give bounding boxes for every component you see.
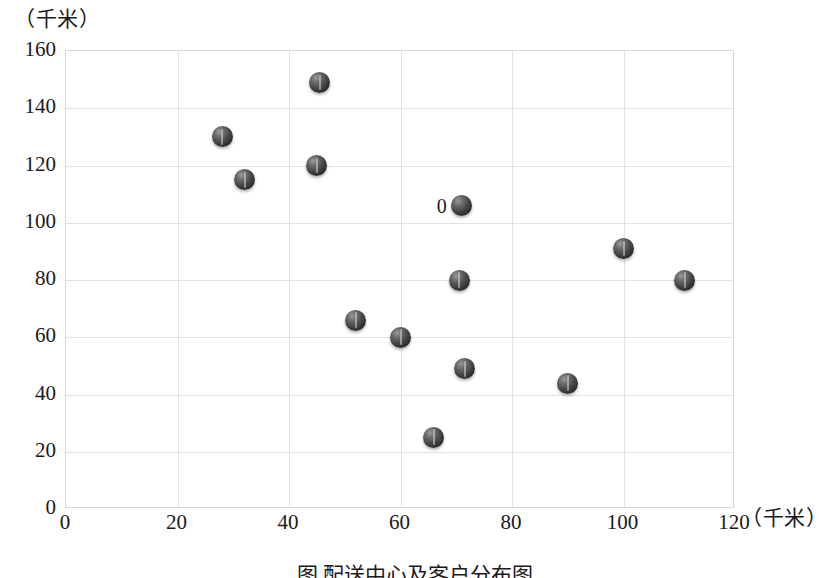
x-axis-tick-label: 0 <box>30 510 100 534</box>
x-axis-tick-label: 40 <box>253 510 323 534</box>
scatter-chart-figure: （千米） 020406080100120140160 0 02040608010… <box>0 0 830 578</box>
x-axis-tick-label: 60 <box>365 510 435 534</box>
data-point[interactable] <box>451 195 472 216</box>
y-axis-tick-label: 20 <box>0 440 56 461</box>
data-point[interactable] <box>557 373 578 394</box>
data-point[interactable] <box>423 427 444 448</box>
y-axis-tick-label: 140 <box>0 96 56 117</box>
x-axis-unit-label: （千米） <box>741 505 827 531</box>
data-point[interactable] <box>309 72 330 93</box>
data-point[interactable] <box>306 155 327 176</box>
data-point[interactable] <box>449 270 470 291</box>
x-axis-tick-label: 20 <box>142 510 212 534</box>
data-point[interactable] <box>345 310 366 331</box>
point-annotation: 0 <box>437 196 451 216</box>
data-point[interactable] <box>234 169 255 190</box>
y-axis-tick-label: 40 <box>0 383 56 404</box>
plot-area: 0 <box>65 50 734 508</box>
x-axis-tick-labels: 020406080100120 <box>65 510 734 540</box>
figure-caption: 图 配送中心及客户分布图 <box>0 562 830 578</box>
y-axis-tick-label: 60 <box>0 325 56 346</box>
y-axis-tick-label: 80 <box>0 268 56 289</box>
data-points-layer: 0 <box>66 51 733 507</box>
y-axis-tick-labels: 020406080100120140160 <box>0 50 56 508</box>
y-axis-tick-label: 100 <box>0 211 56 232</box>
data-point[interactable] <box>212 126 233 147</box>
y-axis-tick-label: 160 <box>0 39 56 60</box>
y-axis-tick-label: 120 <box>0 154 56 175</box>
y-axis-unit-label: （千米） <box>14 6 100 32</box>
data-point[interactable] <box>674 270 695 291</box>
x-axis-tick-label: 80 <box>476 510 546 534</box>
data-point[interactable] <box>390 327 411 348</box>
data-point[interactable] <box>454 358 475 379</box>
data-point[interactable] <box>613 238 634 259</box>
x-axis-tick-label: 100 <box>588 510 658 534</box>
